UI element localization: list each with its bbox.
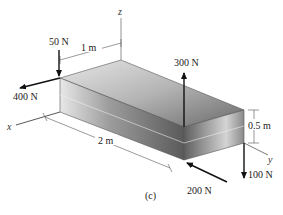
force-100n-label: 100 N (248, 169, 273, 180)
force-200n-label: 200 N (187, 185, 212, 196)
z-axis-label: z (117, 6, 122, 17)
rigid-box-diagram: z x y 1 m 2 m 0.5 m 50 N 400 N 300 N 200… (0, 0, 283, 215)
y-axis (244, 143, 268, 155)
force-400n-label: 400 N (13, 91, 38, 102)
x-axis-label: x (6, 121, 12, 132)
force-200n-arrow (187, 163, 227, 182)
force-50n-label: 50 N (49, 36, 69, 47)
force-400n-arrow (20, 78, 60, 88)
dim-length-label: 2 m (98, 135, 114, 146)
dim-width-label: 1 m (81, 42, 97, 53)
dim-height-label: 0.5 m (248, 120, 271, 131)
x-axis (16, 112, 60, 125)
y-axis-label: y (267, 154, 273, 165)
figure-caption: (c) (145, 190, 156, 202)
force-300n-label: 300 N (174, 57, 199, 68)
